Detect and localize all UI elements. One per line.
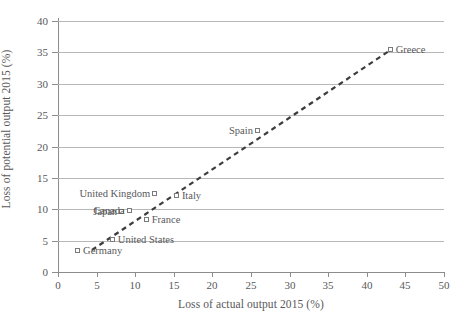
x-axis-tick <box>212 272 213 277</box>
x-axis-tick-label: 30 <box>275 280 305 291</box>
y-axis-tick-label: 10 <box>14 204 48 215</box>
y-axis-tick-label: 30 <box>14 79 48 90</box>
data-point-marker[interactable] <box>110 237 115 242</box>
y-axis-tick <box>52 21 58 22</box>
gridline <box>58 52 444 53</box>
x-axis-tick <box>444 272 445 277</box>
y-axis-tick-label: 20 <box>14 142 48 153</box>
data-point-label: Canada <box>93 205 125 216</box>
x-axis-tick <box>290 272 291 277</box>
y-axis-tick <box>52 147 58 148</box>
y-axis-tick <box>52 84 58 85</box>
data-point-label: Italy <box>182 191 201 202</box>
data-point-marker[interactable] <box>127 208 132 213</box>
x-axis-tick-label: 20 <box>197 280 227 291</box>
x-axis-tick-label: 40 <box>352 280 382 291</box>
x-axis-tick <box>135 272 136 277</box>
x-axis-tick-label: 10 <box>120 280 150 291</box>
x-axis-tick <box>328 272 329 277</box>
data-point-marker[interactable] <box>144 217 149 222</box>
data-point-marker[interactable] <box>75 248 80 253</box>
x-axis-tick <box>97 272 98 277</box>
y-axis-tick <box>52 115 58 116</box>
gridline <box>58 84 444 85</box>
data-point-marker[interactable] <box>388 47 393 52</box>
gridline <box>58 178 444 179</box>
data-point-label: Germany <box>83 246 122 257</box>
gridline <box>58 21 444 22</box>
x-axis-tick-label: 0 <box>43 280 73 291</box>
data-point-label: Spain <box>229 126 253 137</box>
data-point-marker[interactable] <box>152 191 157 196</box>
gridline <box>58 147 444 148</box>
x-axis-tick <box>58 272 59 277</box>
x-axis-tick-label: 45 <box>390 280 420 291</box>
x-axis-tick-label: 5 <box>82 280 112 291</box>
data-point-label: Greece <box>396 45 426 56</box>
x-axis-tick <box>174 272 175 277</box>
x-axis-tick <box>251 272 252 277</box>
y-axis-tick-label: 25 <box>14 110 48 121</box>
x-axis-title: Loss of actual output 2015 (%) <box>58 298 444 310</box>
y-axis-tick-label: 15 <box>14 173 48 184</box>
y-axis-tick-label: 0 <box>14 267 48 278</box>
x-axis-tick <box>405 272 406 277</box>
y-axis-tick <box>52 241 58 242</box>
y-axis-tick <box>52 52 58 53</box>
y-axis-tick-label: 5 <box>14 236 48 247</box>
data-point-label: United States <box>118 235 174 246</box>
x-axis-tick-label: 50 <box>429 280 459 291</box>
data-point-marker[interactable] <box>174 193 179 198</box>
x-axis-tick <box>367 272 368 277</box>
data-point-label: United Kingdom <box>79 189 150 200</box>
y-axis-tick-label: 35 <box>14 47 48 58</box>
x-axis-tick-label: 35 <box>313 280 343 291</box>
x-axis-tick-label: 25 <box>236 280 266 291</box>
scatter-chart: Loss of potential output 2015 (%) Loss o… <box>0 0 467 322</box>
y-axis-tick <box>52 209 58 210</box>
gridline <box>58 115 444 116</box>
data-point-label: France <box>152 215 181 226</box>
data-point-marker[interactable] <box>255 128 260 133</box>
y-axis-tick <box>52 178 58 179</box>
y-axis-tick-label: 40 <box>14 16 48 27</box>
gridline <box>58 241 444 242</box>
x-axis-tick-label: 15 <box>159 280 189 291</box>
